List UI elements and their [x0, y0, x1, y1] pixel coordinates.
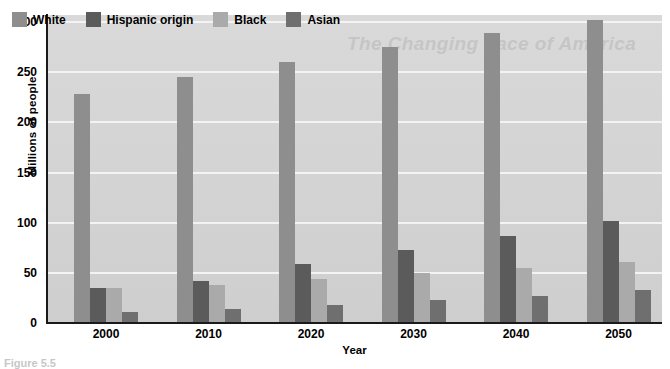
bar: [74, 94, 90, 323]
bar: [225, 309, 241, 323]
bar: [603, 221, 619, 323]
x-axis-tick-labels: 200020102020203020402050: [47, 327, 662, 345]
x-axis-tick-label: 2050: [605, 327, 632, 341]
gridline: [47, 272, 662, 274]
legend-swatch-icon: [86, 12, 101, 27]
bar: [484, 33, 500, 323]
bar: [311, 279, 327, 323]
bar: [619, 262, 635, 323]
gridline: [47, 71, 662, 73]
legend-item-label: Black: [234, 13, 266, 27]
legend-item-label: Asian: [307, 13, 340, 27]
bar: [587, 20, 603, 323]
y-axis-tick-label: 50: [24, 266, 37, 280]
x-axis-tick-label: 2010: [195, 327, 222, 341]
figure-caption: Figure 5.5: [4, 357, 56, 369]
bar: [500, 236, 516, 323]
bar: [414, 273, 430, 323]
gridline: [47, 222, 662, 224]
bar: [193, 281, 209, 323]
y-axis-tick-label: 250: [17, 65, 37, 79]
y-axis-tick-label: 100: [17, 216, 37, 230]
bar: [327, 305, 343, 323]
legend-swatch-icon: [12, 12, 27, 27]
bar: [430, 300, 446, 323]
x-axis-tick-label: 2040: [503, 327, 530, 341]
legend-item: Asian: [286, 12, 340, 27]
legend-item: White: [12, 12, 66, 27]
y-axis-tick-labels: 050100150200250300: [0, 14, 42, 324]
y-axis-tick-label: 150: [17, 166, 37, 180]
y-axis-line: [46, 14, 48, 324]
bar: [209, 285, 225, 323]
legend-item-label: White: [33, 13, 66, 27]
y-axis-tick-label: 200: [17, 115, 37, 129]
bar: [398, 250, 414, 323]
bar: [516, 268, 532, 323]
bar: [106, 288, 122, 323]
bar: [295, 264, 311, 323]
legend-item-label: Hispanic origin: [107, 13, 194, 27]
x-axis-tick-label: 2000: [93, 327, 120, 341]
chart-legend: WhiteHispanic originBlackAsian: [12, 12, 351, 27]
plot-area: The Changing Face of America: [47, 15, 662, 323]
legend-item: Black: [213, 12, 266, 27]
gridline: [47, 172, 662, 174]
x-axis-tick-label: 2030: [400, 327, 427, 341]
x-axis-tick-label: 2020: [298, 327, 325, 341]
bar: [635, 290, 651, 323]
x-axis-title: Year: [47, 344, 662, 356]
bar: [279, 62, 295, 323]
legend-item: Hispanic origin: [86, 12, 194, 27]
y-axis-tick-label: 0: [30, 316, 37, 330]
legend-swatch-icon: [286, 12, 301, 27]
bar: [532, 296, 548, 323]
bar: [177, 77, 193, 323]
bar: [90, 288, 106, 323]
legend-swatch-icon: [213, 12, 228, 27]
bar: [382, 47, 398, 323]
gridline: [47, 121, 662, 123]
x-axis-line: [46, 322, 662, 324]
